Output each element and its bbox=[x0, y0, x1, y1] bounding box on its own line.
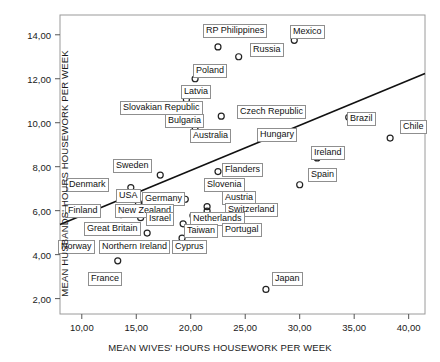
x-tick-label: 10,00 bbox=[70, 322, 94, 333]
data-point-marker bbox=[263, 286, 269, 292]
data-point-label: Denmark bbox=[66, 178, 109, 192]
data-point-label: Slovakian Republic bbox=[120, 101, 203, 115]
x-tick-label: 15,00 bbox=[124, 322, 148, 333]
data-point-marker bbox=[218, 113, 224, 119]
data-point-label: Israel bbox=[146, 212, 174, 226]
y-tick-label: 14,00 bbox=[0, 29, 51, 40]
data-point-label: Slovenia bbox=[204, 178, 245, 192]
x-axis-title: MEAN WIVES' HOURS HOUSEWORK PER WEEK bbox=[0, 342, 440, 353]
data-point-label: Cyprus bbox=[172, 240, 207, 254]
data-point-marker bbox=[387, 135, 393, 141]
data-point-label: Northern Ireland bbox=[99, 240, 170, 254]
data-point-label: Hungary bbox=[257, 128, 297, 142]
y-tick-label: 6,00 bbox=[0, 205, 51, 216]
data-point-marker bbox=[215, 169, 221, 175]
data-point-marker bbox=[144, 230, 150, 236]
data-point-label: Mexico bbox=[290, 25, 325, 39]
data-point-label: Ireland bbox=[311, 146, 345, 160]
y-tick-label: 4,00 bbox=[0, 249, 51, 260]
data-point-label: Japan bbox=[272, 272, 303, 286]
x-tick-label: 30,00 bbox=[288, 322, 312, 333]
data-point-marker bbox=[215, 44, 221, 50]
data-point-label: Brazil bbox=[347, 112, 376, 126]
scatter-plot-figure: RP PhilippinesMexicoRussiaPolandLatviaSl… bbox=[0, 0, 440, 362]
y-axis-title: MEAN HUSBANDS' HOURS HOUSEWORK PER WEEK bbox=[59, 24, 70, 324]
data-point-label: Finland bbox=[65, 204, 101, 218]
data-point-label: France bbox=[88, 272, 122, 286]
data-point-marker bbox=[236, 54, 242, 60]
data-point-label: Taiwan bbox=[184, 224, 218, 238]
data-point-marker bbox=[157, 172, 163, 178]
data-point-label: USA bbox=[116, 189, 141, 203]
x-tick-label: 35,00 bbox=[342, 322, 366, 333]
data-point-label: Portugal bbox=[222, 223, 262, 237]
x-tick-label: 25,00 bbox=[233, 322, 257, 333]
data-point-label: Russia bbox=[250, 43, 284, 57]
data-point-label: Great Britain bbox=[84, 222, 141, 236]
x-tick-label: 40,00 bbox=[397, 322, 421, 333]
data-point-label: Australia bbox=[190, 129, 231, 143]
data-point-marker bbox=[297, 182, 303, 188]
data-point-label: Czech Republic bbox=[237, 105, 306, 119]
data-point-label: Poland bbox=[193, 64, 227, 78]
y-tick-label: 12,00 bbox=[0, 73, 51, 84]
data-point-label: Flanders bbox=[222, 163, 263, 177]
data-point-label: Sweden bbox=[113, 159, 152, 173]
data-point-label: Bulgaria bbox=[165, 114, 204, 128]
data-point-label: Latvia bbox=[181, 85, 211, 99]
x-tick-label: 20,00 bbox=[179, 322, 203, 333]
data-point-label: RP Philippines bbox=[203, 24, 267, 38]
y-tick-label: 10,00 bbox=[0, 117, 51, 128]
data-point-label: Spain bbox=[308, 168, 337, 182]
y-tick-label: 2,00 bbox=[0, 293, 51, 304]
data-point-marker bbox=[115, 258, 121, 264]
y-tick-label: 8,00 bbox=[0, 161, 51, 172]
data-point-label: Chile bbox=[400, 120, 427, 134]
